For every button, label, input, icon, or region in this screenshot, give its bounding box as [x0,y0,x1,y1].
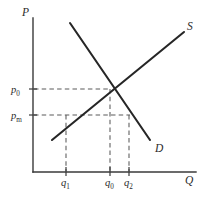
p0-subscript: 0 [16,90,20,98]
y-axis-label: P [21,6,29,18]
supply-curve [52,32,184,140]
guide-lines-group [34,89,130,171]
q0-axis-label: q0 [105,177,114,191]
q0-subscript: 0 [110,183,114,191]
diagram-canvas: P Q S D p0 pm q1 q0 q2 [0,0,211,198]
curves-group [52,23,184,140]
p0-axis-label: p0 [10,84,20,98]
supply-demand-figure: P Q S D p0 pm q1 q0 q2 [0,0,211,198]
x-axis-label: Q [185,174,194,186]
q2-axis-label: q2 [124,177,133,191]
q1-axis-label: q1 [61,177,70,191]
supply-curve-label: S [187,20,193,32]
demand-curve-label: D [154,142,164,154]
q1-subscript: 1 [66,183,70,191]
pm-subscript: m [16,116,22,124]
pm-axis-label: pm [10,110,22,124]
q2-subscript: 2 [129,183,133,191]
